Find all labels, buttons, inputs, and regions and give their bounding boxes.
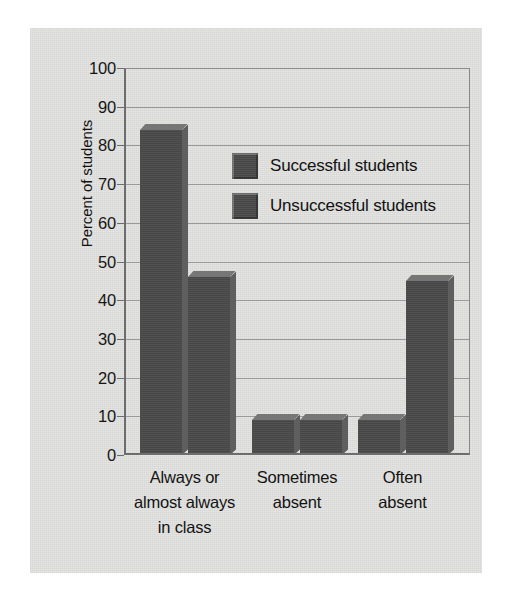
y-axis-tick-label: 10	[72, 407, 116, 426]
x-axis-label-line: in class	[110, 515, 260, 540]
y-axis-tick-label: 70	[72, 175, 116, 194]
x-axis-category-label: Sometimesabsent	[232, 465, 362, 515]
chart-figure: Percent of students 01020304050607080901…	[0, 0, 506, 597]
legend-swatch-icon	[232, 153, 258, 179]
y-axis-tick	[117, 68, 124, 69]
y-axis-tick	[117, 339, 124, 340]
y-axis-tick	[117, 300, 124, 301]
y-axis-tick-label: 50	[72, 252, 116, 271]
y-axis-tick-label: 30	[72, 329, 116, 348]
legend-item-successful: Successful students	[232, 146, 462, 186]
y-axis-tick-label: 80	[72, 136, 116, 155]
y-axis-tick	[117, 223, 124, 224]
x-axis-category-labels: Always oralmost alwaysin classSometimesa…	[124, 465, 470, 565]
x-axis-label-line: Sometimes	[232, 465, 362, 490]
legend-item-unsuccessful: Unsuccessful students	[232, 186, 462, 226]
legend-label: Successful students	[270, 156, 417, 176]
x-axis-label-line: absent	[348, 490, 458, 515]
legend-label: Unsuccessful students	[270, 196, 436, 216]
y-axis-tick	[117, 145, 124, 146]
y-axis-tick	[117, 262, 124, 263]
x-axis-label-line: absent	[232, 490, 362, 515]
y-axis-tick-label: 20	[72, 368, 116, 387]
y-axis-tick	[117, 184, 124, 185]
y-axis-tick-label: 60	[72, 213, 116, 232]
y-axis-tick-label: 90	[72, 97, 116, 116]
y-axis-tick-labels: 0102030405060708090100	[66, 68, 116, 455]
y-axis-tick-label: 100	[72, 59, 116, 78]
y-axis-tick	[117, 455, 124, 456]
plot-area	[124, 68, 470, 455]
y-axis-tick	[117, 107, 124, 108]
y-axis-tick	[117, 378, 124, 379]
x-axis-category-label: Oftenabsent	[348, 465, 458, 515]
chart-legend: Successful students Unsuccessful student…	[232, 146, 462, 226]
y-axis-tick	[117, 416, 124, 417]
x-axis-label-line: Often	[348, 465, 458, 490]
y-axis-tick-label: 40	[72, 291, 116, 310]
y-axis-tick-label: 0	[72, 446, 116, 465]
plot-frame	[124, 68, 470, 455]
legend-swatch-icon	[232, 193, 258, 219]
